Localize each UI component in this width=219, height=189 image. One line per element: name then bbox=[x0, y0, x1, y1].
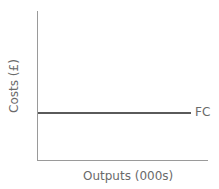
x-axis bbox=[37, 160, 208, 161]
y-axis-label: Costs (£) bbox=[7, 59, 21, 113]
y-axis bbox=[37, 11, 38, 161]
x-axis-label: Outputs (000s) bbox=[83, 169, 173, 183]
fixed-cost-line bbox=[38, 112, 191, 114]
fixed-cost-label: FC bbox=[195, 105, 210, 119]
